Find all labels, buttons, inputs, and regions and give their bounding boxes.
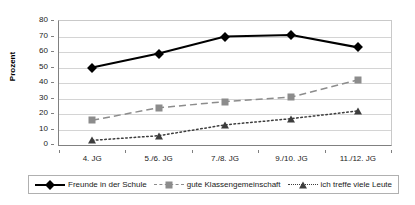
- data-point-marker: [87, 63, 97, 73]
- y-tick-label: 70: [39, 31, 48, 41]
- data-point-marker: [287, 115, 295, 122]
- y-tick-mark: [51, 36, 54, 37]
- y-axis-title: Prozent: [8, 37, 17, 97]
- x-tick-mark: [192, 150, 193, 153]
- x-tick-label: 7./8. JG: [211, 154, 239, 163]
- legend-label: gute Klassengemeinschaft: [187, 180, 281, 189]
- chart-figure: Prozent 01020304050607080 4. JG5./6. JG7…: [0, 0, 415, 205]
- data-point-marker: [89, 117, 96, 124]
- y-tick-label: 40: [39, 77, 48, 87]
- data-point-marker: [154, 49, 164, 59]
- x-axis-tick-labels: 4. JG5./6. JG7./8. JG9./10. JG11./12. JG: [58, 150, 392, 164]
- legend-item: ich treffe viele Leute: [288, 180, 392, 189]
- x-tick-mark: [391, 150, 392, 153]
- y-tick-label: 10: [39, 124, 48, 134]
- data-point-marker: [353, 42, 363, 52]
- x-tick-mark: [125, 150, 126, 153]
- data-point-marker: [222, 98, 229, 105]
- x-tick-mark: [258, 150, 259, 153]
- legend-key-triangle-icon: [288, 180, 318, 189]
- data-point-marker: [288, 93, 295, 100]
- data-point-marker: [354, 107, 362, 114]
- chart-legend: Freunde in der Schulegute Klassengemeins…: [28, 175, 399, 194]
- data-point-marker: [155, 132, 163, 139]
- legend-label: Freunde in der Schule: [68, 180, 147, 189]
- y-tick-label: 50: [39, 62, 48, 72]
- series-markers: [59, 21, 391, 145]
- x-tick-mark: [59, 150, 60, 153]
- data-point-marker: [220, 32, 230, 42]
- y-tick-label: 80: [39, 15, 48, 25]
- y-tick-label: 60: [39, 46, 48, 56]
- y-tick-mark: [51, 113, 54, 114]
- y-tick-label: 0: [44, 139, 48, 149]
- data-point-marker: [221, 121, 229, 128]
- x-tick-label: 11./12. JG: [340, 154, 376, 163]
- legend-item: Freunde in der Schule: [35, 180, 147, 189]
- y-tick-mark: [51, 98, 54, 99]
- data-point-marker: [88, 137, 96, 144]
- x-tick-label: 4. JG: [83, 154, 102, 163]
- y-tick-mark: [51, 144, 54, 145]
- data-point-marker: [286, 30, 296, 40]
- legend-key-square-icon: [154, 180, 184, 189]
- y-tick-mark: [51, 51, 54, 52]
- y-tick-mark: [51, 67, 54, 68]
- data-point-marker: [354, 76, 361, 83]
- y-axis-tick-labels: 01020304050607080: [28, 14, 54, 152]
- legend-label: ich treffe viele Leute: [321, 180, 392, 189]
- x-tick-label: 5./6. JG: [145, 154, 173, 163]
- x-tick-label: 9./10. JG: [275, 154, 307, 163]
- y-tick-mark: [51, 129, 54, 130]
- y-tick-label: 20: [39, 108, 48, 118]
- x-tick-mark: [325, 150, 326, 153]
- y-tick-label: 30: [39, 93, 48, 103]
- legend-key-diamond-icon: [35, 180, 65, 189]
- legend-item: gute Klassengemeinschaft: [154, 180, 281, 189]
- data-point-marker: [155, 104, 162, 111]
- y-tick-mark: [51, 20, 54, 21]
- plot-area: [58, 20, 392, 146]
- y-tick-mark: [51, 82, 54, 83]
